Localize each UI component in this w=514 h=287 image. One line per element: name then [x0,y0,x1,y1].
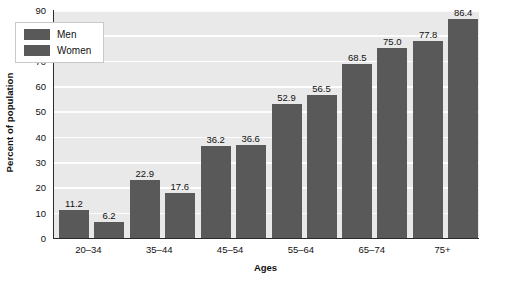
bar-chart: Percent of population 010203040506070809… [0,0,514,287]
bar-value-label: 75.0 [383,36,402,47]
legend-label: Men [57,29,76,40]
bar-women: 17.6 [165,193,195,238]
x-axis-tick-label: 75+ [435,244,451,255]
bar-value-label: 22.9 [136,168,155,179]
y-axis-tick-label: 10 [35,207,46,218]
x-axis-tick-label: 20–34 [75,244,101,255]
bar-group: 68.575.0 [337,10,408,238]
bar-men: 11.2 [59,210,89,238]
x-axis-tick-label: 35–44 [146,244,172,255]
bar-men: 22.9 [130,180,160,238]
chart-legend: MenWomen [15,22,104,63]
bar-group: 36.236.6 [196,10,267,238]
y-axis-title-text: Percent of population [5,73,16,173]
bar-group: 52.956.5 [267,10,338,238]
x-axis-tick-labels: 20–3435–4445–5455–6465–7475+ [53,244,478,260]
legend-item: Men [24,29,91,40]
legend-swatch-icon [24,45,50,56]
bars-layer: 11.26.222.917.636.236.652.956.568.575.07… [54,10,479,238]
x-axis-tick-label: 55–64 [288,244,314,255]
bar-value-label: 6.2 [102,210,115,221]
y-axis-tick-label: 50 [35,106,46,117]
bar-women: 56.5 [307,95,337,238]
bar-group: 77.886.4 [408,10,479,238]
legend-swatch-icon [24,29,50,40]
y-axis-tick-label: 30 [35,157,46,168]
bar-value-label: 36.6 [241,133,260,144]
bar-men: 52.9 [272,104,302,238]
bar-value-label: 36.2 [206,134,225,145]
legend-label: Women [57,45,91,56]
bar-value-label: 68.5 [348,52,367,63]
bar-women: 75.0 [377,48,407,238]
bar-men: 68.5 [342,64,372,238]
bar-women: 86.4 [448,19,478,238]
bar-value-label: 56.5 [312,83,331,94]
bar-value-label: 17.6 [171,181,190,192]
bar-men: 77.8 [413,41,443,238]
bar-women: 6.2 [94,222,124,238]
plot-area: 11.26.222.917.636.236.652.956.568.575.07… [53,10,479,239]
bar-value-label: 77.8 [419,29,438,40]
bar-group: 22.917.6 [125,10,196,238]
y-axis-tick-label: 0 [41,233,46,244]
x-axis-tick-label: 45–54 [217,244,243,255]
legend-item: Women [24,45,91,56]
bar-value-label: 86.4 [454,7,473,18]
y-axis-tick-label: 20 [35,182,46,193]
bar-men: 36.2 [201,146,231,238]
x-axis-tick-label: 65–74 [359,244,385,255]
y-axis-tick-label: 40 [35,131,46,142]
bar-value-label: 11.2 [65,198,83,209]
y-axis-tick-label: 90 [35,5,46,16]
bar-value-label: 52.9 [277,92,296,103]
x-axis-title: Ages [53,262,478,273]
bar-women: 36.6 [236,145,266,238]
y-axis-tick-label: 60 [35,81,46,92]
